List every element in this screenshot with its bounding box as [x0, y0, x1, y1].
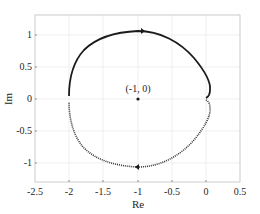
x-tick-label: -2: [65, 186, 73, 197]
x-tick-label: -0.5: [164, 186, 180, 197]
x-tick-label: -1: [134, 186, 142, 197]
y-tick-label: 0: [27, 93, 32, 104]
y-axis-label: Im: [2, 92, 14, 105]
y-tick-label: -0.5: [16, 125, 32, 136]
x-tick-label: 0.5: [234, 186, 247, 197]
x-tick-label: -1.5: [95, 186, 111, 197]
x-tick-labels: -2.5 -2 -1.5 -1 -0.5 0 0.5: [27, 186, 246, 197]
x-tick-label: 0: [204, 186, 209, 197]
y-tick-label: 0.5: [20, 61, 33, 72]
y-tick-labels: 1 0.5 0 -0.5 -1: [16, 29, 32, 168]
critical-point-marker: [136, 97, 139, 100]
critical-point-label: (-1, 0): [126, 83, 151, 95]
y-tick-label: -1: [24, 157, 32, 168]
nyquist-plot: (-1, 0) -2.5 -2 -1.5 -1 -0.5 0 0.5 1 0.5…: [0, 0, 260, 214]
y-tick-label: 1: [27, 29, 32, 40]
x-axis-label: Re: [132, 198, 144, 210]
x-tick-label: -2.5: [27, 186, 43, 197]
